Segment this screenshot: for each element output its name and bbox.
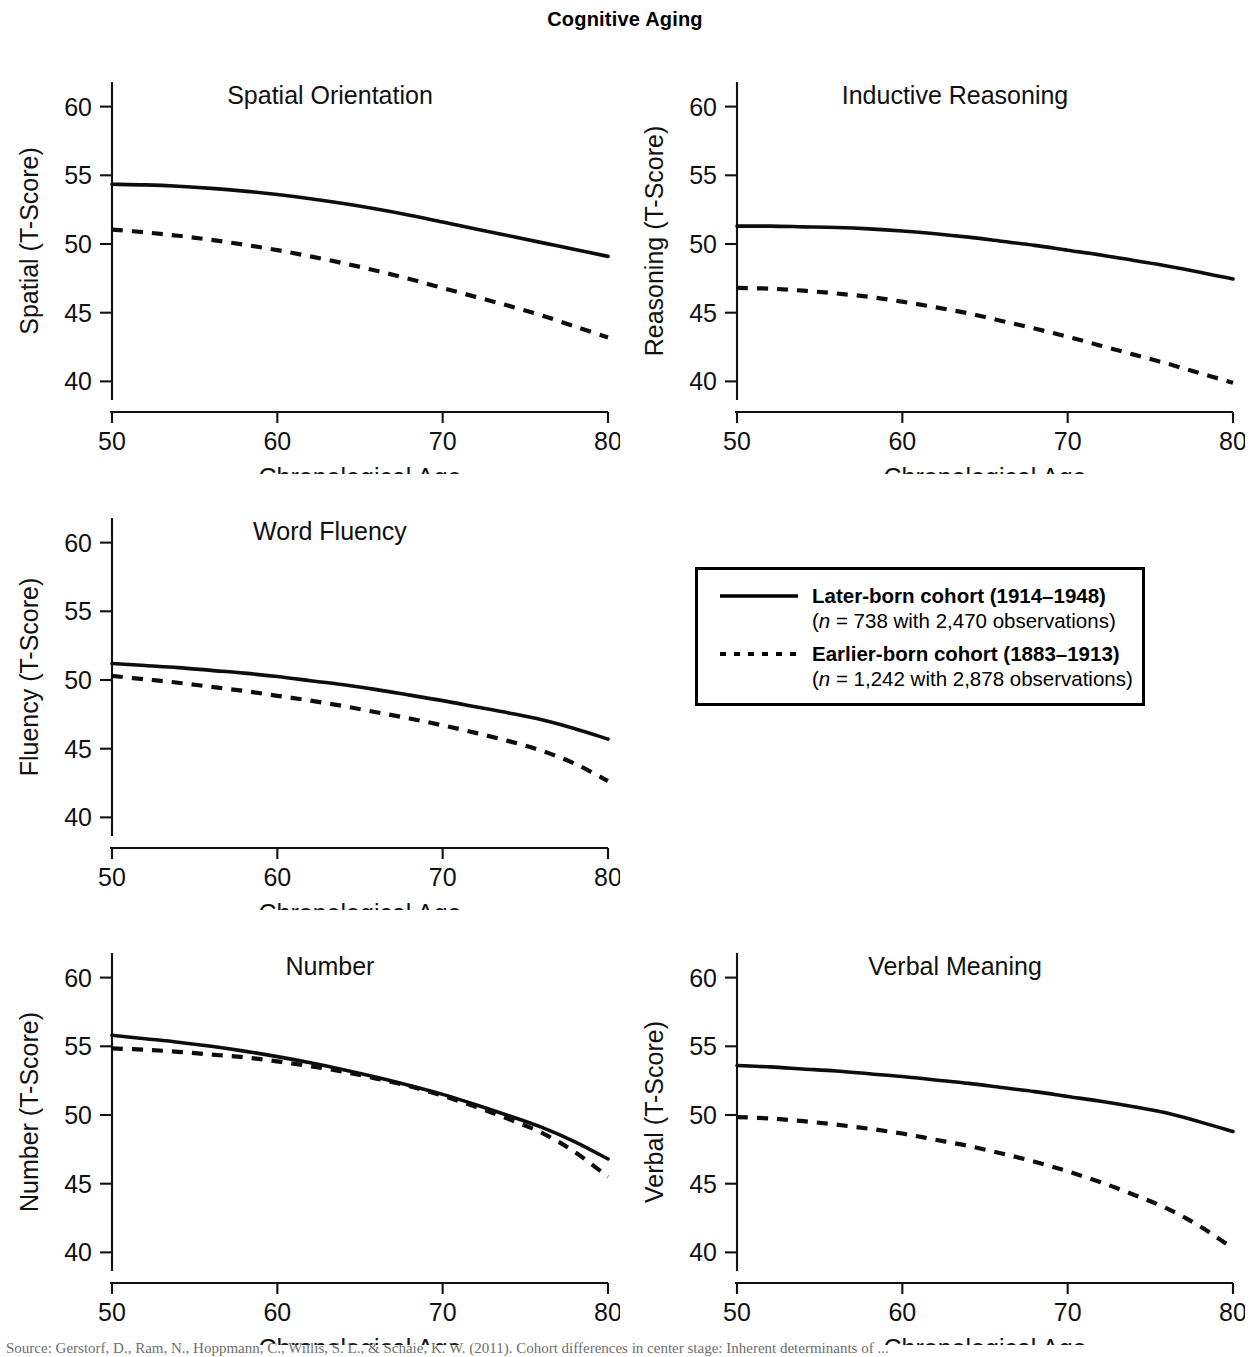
x-axis-title: Chronological Age xyxy=(884,463,1087,474)
x-tick-label: 50 xyxy=(723,1298,751,1326)
x-tick-label: 60 xyxy=(263,1298,291,1326)
y-tick-label: 60 xyxy=(64,93,92,121)
series-line-dashed xyxy=(737,1117,1233,1248)
panel-title: Number xyxy=(286,952,375,980)
panel-spatial-orientation: Spatial Orientation404550556050607080Spa… xyxy=(0,44,620,474)
x-tick-label: 50 xyxy=(98,427,126,455)
y-tick-label: 40 xyxy=(64,367,92,395)
x-tick-label: 80 xyxy=(594,863,620,891)
figure-title: Cognitive Aging xyxy=(0,8,1250,31)
y-tick-label: 55 xyxy=(689,1032,717,1060)
x-axis-title: Chronological Age xyxy=(259,899,462,910)
y-tick-label: 40 xyxy=(689,1238,717,1266)
panel-title: Inductive Reasoning xyxy=(842,81,1069,109)
x-tick-label: 60 xyxy=(888,427,916,455)
panel-verbal-meaning: Verbal Meaning404550556050607080Verbal (… xyxy=(625,915,1245,1345)
legend-swatch-solid-icon xyxy=(716,583,802,613)
y-tick-label: 45 xyxy=(689,299,717,327)
panel-number: Number404550556050607080Number (T-Score)… xyxy=(0,915,620,1345)
x-tick-label: 60 xyxy=(888,1298,916,1326)
y-tick-label: 60 xyxy=(64,529,92,557)
y-tick-label: 50 xyxy=(689,230,717,258)
y-tick-label: 45 xyxy=(689,1170,717,1198)
x-tick-label: 70 xyxy=(429,1298,457,1326)
y-tick-label: 55 xyxy=(64,161,92,189)
y-tick-label: 45 xyxy=(64,735,92,763)
x-tick-label: 80 xyxy=(594,427,620,455)
x-tick-label: 70 xyxy=(1054,427,1082,455)
y-axis-title: Spatial (T-Score) xyxy=(15,147,43,335)
y-axis-title: Number (T-Score) xyxy=(15,1012,43,1212)
legend-title-later-born: Later-born cohort (1914–1948) xyxy=(812,584,1106,607)
series-line-solid xyxy=(112,184,608,256)
y-tick-label: 60 xyxy=(689,964,717,992)
y-axis-title: Fluency (T-Score) xyxy=(15,578,43,777)
x-tick-label: 50 xyxy=(98,863,126,891)
y-tick-label: 45 xyxy=(64,299,92,327)
x-tick-label: 80 xyxy=(1219,1298,1245,1326)
panel-title: Verbal Meaning xyxy=(868,952,1042,980)
x-tick-label: 60 xyxy=(263,427,291,455)
y-tick-label: 50 xyxy=(64,230,92,258)
y-tick-label: 40 xyxy=(64,1238,92,1266)
x-tick-label: 80 xyxy=(594,1298,620,1326)
x-tick-label: 70 xyxy=(429,427,457,455)
y-tick-label: 50 xyxy=(64,666,92,694)
x-tick-label: 60 xyxy=(263,863,291,891)
y-axis-title: Verbal (T-Score) xyxy=(640,1021,668,1203)
series-line-solid xyxy=(737,226,1233,279)
x-tick-label: 70 xyxy=(1054,1298,1082,1326)
panel-word-fluency: Word Fluency404550556050607080Fluency (T… xyxy=(0,480,620,910)
panel-title: Word Fluency xyxy=(253,517,407,545)
legend-sub-later-born: (n = 738 with 2,470 observations) xyxy=(812,609,1116,632)
legend-title-earlier-born: Earlier-born cohort (1883–1913) xyxy=(812,642,1120,665)
x-tick-label: 50 xyxy=(98,1298,126,1326)
series-line-dashed xyxy=(112,1048,608,1176)
series-line-dashed xyxy=(112,230,608,338)
y-tick-label: 40 xyxy=(64,803,92,831)
series-line-solid xyxy=(112,1035,608,1159)
y-axis-title: Reasoning (T-Score) xyxy=(640,126,668,357)
x-tick-label: 50 xyxy=(723,427,751,455)
x-axis-title: Chronological Age xyxy=(259,463,462,474)
y-tick-label: 55 xyxy=(64,1032,92,1060)
legend-swatch-dashed-icon xyxy=(716,641,802,671)
legend-entry-later-born: Later-born cohort (1914–1948) (n = 738 w… xyxy=(716,583,1116,633)
x-tick-label: 80 xyxy=(1219,427,1245,455)
y-tick-label: 60 xyxy=(689,93,717,121)
y-tick-label: 40 xyxy=(689,367,717,395)
source-caption: Source: Gerstorf, D., Ram, N., Hoppmann,… xyxy=(0,1340,1250,1357)
panel-title: Spatial Orientation xyxy=(227,81,433,109)
legend-entry-earlier-born: Earlier-born cohort (1883–1913) (n = 1,2… xyxy=(716,641,1133,691)
y-tick-label: 55 xyxy=(64,597,92,625)
y-tick-label: 45 xyxy=(64,1170,92,1198)
y-tick-label: 60 xyxy=(64,964,92,992)
series-line-dashed xyxy=(737,288,1233,383)
y-tick-label: 50 xyxy=(689,1101,717,1129)
y-tick-label: 55 xyxy=(689,161,717,189)
legend: Later-born cohort (1914–1948) (n = 738 w… xyxy=(695,567,1145,706)
legend-sub-earlier-born: (n = 1,242 with 2,878 observations) xyxy=(812,667,1133,690)
series-line-solid xyxy=(112,664,608,740)
panel-inductive-reasoning: Inductive Reasoning404550556050607080Rea… xyxy=(625,44,1245,474)
y-tick-label: 50 xyxy=(64,1101,92,1129)
series-line-solid xyxy=(737,1066,1233,1132)
x-tick-label: 70 xyxy=(429,863,457,891)
series-line-dashed xyxy=(112,676,608,781)
